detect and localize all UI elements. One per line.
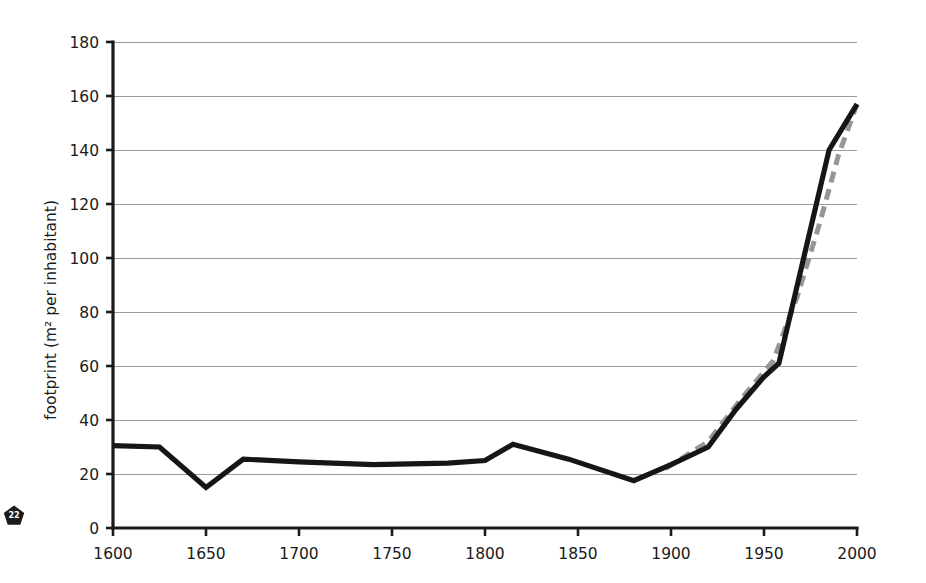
x-tick-label: 1950 (744, 545, 783, 563)
x-tick-label: 1850 (558, 545, 597, 563)
series-solid-line (113, 104, 857, 487)
y-tick-label: 140 (69, 142, 99, 160)
y-tick-label: 120 (69, 196, 99, 214)
x-tick-label: 1750 (372, 545, 411, 563)
x-tick-label: 1600 (93, 545, 132, 563)
gridlines-group (113, 42, 857, 474)
y-tick-label: 180 (69, 34, 99, 52)
x-tick-label: 1650 (186, 545, 225, 563)
y-tick-label: 100 (69, 250, 99, 268)
x-tick-label: 2000 (837, 545, 876, 563)
x-tick-labels-group: 160016501700175018001850190019502000 (93, 545, 876, 563)
x-tick-label: 1900 (651, 545, 690, 563)
y-tick-label: 80 (79, 304, 99, 322)
y-tick-labels-group: 020406080100120140160180 (69, 34, 99, 538)
page-badge-number: 22 (8, 511, 19, 520)
y-tick-label: 0 (89, 520, 99, 538)
x-tick-label: 1700 (279, 545, 318, 563)
y-tick-label: 20 (79, 466, 99, 484)
y-axis-title: footprint (m² per inhabitant) (42, 200, 60, 420)
pentagon-badge-icon: 22 (3, 505, 25, 526)
y-tick-label: 40 (79, 412, 99, 430)
chart-figure: 020406080100120140160180 160016501700175… (0, 0, 926, 583)
line-chart: 020406080100120140160180 160016501700175… (0, 0, 926, 583)
y-tick-label: 60 (79, 358, 99, 376)
y-tick-label: 160 (69, 88, 99, 106)
x-tick-label: 1800 (465, 545, 504, 563)
